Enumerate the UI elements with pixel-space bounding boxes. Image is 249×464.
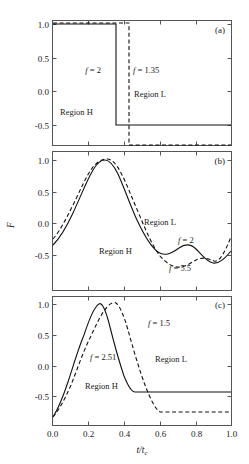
xtick-3: 0.6 [155,429,167,439]
panel-a-ytick-4: -0.5 [35,121,50,131]
panel-b-curve-dashed [53,159,231,267]
three-panel-line-chart: F [0,0,249,464]
panel-b: 1.0 0.5 0.0 -0.5 (b) Region L Region H f… [35,152,232,291]
panel-a-frame [53,21,232,146]
panel-c-ytick-2: 0.5 [38,331,50,341]
panel-a-ytick-1: 1.0 [38,20,50,30]
xtick-1: 0.2 [83,429,94,439]
y-axis-title: F [6,222,16,229]
panel-c-ytick-3: 0.0 [38,362,50,372]
panel-a-ytick-3: 0.0 [38,87,50,97]
xtick-5: 1.0 [226,429,238,439]
panel-b-bottom-ticks [53,287,232,291]
panel-b-curve-solid [53,160,231,263]
panel-c-label: (c) [215,300,225,310]
x-tick-labels: 0.0 0.2 0.4 0.6 0.8 1.0 [47,429,238,439]
panel-a-region-l-label: Region L [134,89,166,99]
panel-b-f-label-dashed: f = 5.5 [169,263,191,273]
panel-c-frame [53,297,232,426]
panel-a-label: (a) [215,25,225,35]
panel-c-bottom-ticks [53,422,232,426]
panel-a-curve-dashed [53,23,231,145]
panel-c-region-h-label: Region H [85,381,118,391]
xtick-0: 0.0 [47,429,59,439]
panel-a: 1.0 0.5 0.0 -0.5 (a) f = 2 f = 1.35 Regi… [35,20,232,146]
panel-c-top-ticks [89,297,197,301]
panel-b-label: (b) [215,156,226,166]
panel-c-right-ticks [228,305,232,397]
panel-c-f-label-solid: f = 2.51 [90,352,116,362]
panel-a-right-ticks [228,25,232,126]
panel-b-ytick-2: 0.5 [38,188,50,198]
xtick-2: 0.4 [119,429,131,439]
panel-b-ytick-3: 0.0 [38,219,50,229]
panel-c-curve-solid [53,304,231,417]
panel-a-f-label-solid: f = 2 [85,65,101,75]
xtick-4: 0.8 [191,429,203,439]
panel-a-f-label-dashed: f = 1.35 [133,65,159,75]
panel-c-f-label-dashed: f = 1.5 [148,318,170,328]
panel-c-left-ticks [53,305,57,397]
figure-container: F [0,0,249,464]
panel-c-ytick-1: 1.0 [38,300,50,310]
panel-b-ytick-4: -0.5 [35,251,50,261]
panel-c: 1.0 0.5 0.0 -0.5 (c) f = 1.5 f = 2.51 Re… [35,297,232,426]
panel-a-left-ticks [53,25,57,126]
x-axis-title: t/tc [136,445,148,457]
panel-b-f-label-solid: f = 2 [178,235,194,245]
panel-c-ytick-4: -0.5 [35,392,50,402]
panel-b-region-l-label: Region L [144,217,176,227]
panel-b-top-ticks [89,152,197,156]
panel-c-curve-dashed [53,303,231,417]
panel-c-region-l-label: Region L [155,354,187,364]
panel-b-region-h-label: Region H [99,246,132,256]
panel-a-region-h-label: Region H [60,107,93,117]
panel-b-ytick-1: 1.0 [38,156,50,166]
panel-a-ytick-2: 0.5 [38,54,50,64]
